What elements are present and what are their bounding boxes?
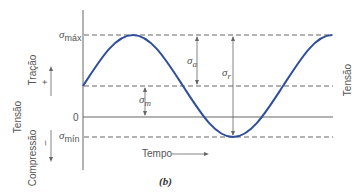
time-axis-label: Tempo [142,148,172,159]
figure-caption: (b) [159,175,172,188]
sigma-r-label: σr [222,66,231,81]
stress-axis-label-right: Tensão [342,63,353,96]
compression-label: Compressão [27,129,38,186]
sigma-a-label: σa [187,54,197,69]
zero-label: 0 [73,112,79,123]
fatigue-stress-diagram: σmáx σmín σa σr σm 0 Tensão Tração Compr… [0,0,355,196]
tension-sign: + [40,79,50,84]
tension-label: Tração [27,54,38,85]
compression-sign: – [40,140,50,145]
sigma-max-label: σmáx [59,28,82,43]
time-arrow [172,152,209,156]
sigma-min-label: σmín [59,129,79,144]
stress-axis-label-left: Tensão [12,100,23,133]
